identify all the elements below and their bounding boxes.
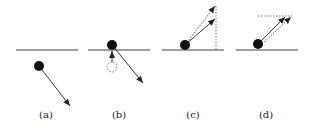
dotted-velocity-arrow	[262, 17, 291, 44]
velocity-arrow	[258, 17, 285, 44]
previous-position-circle	[107, 62, 117, 72]
velocity-arrow	[185, 19, 215, 45]
panel-a	[16, 50, 78, 106]
dotted-velocity-arrow	[185, 6, 215, 45]
panel-label-b: (b)	[112, 109, 126, 120]
collision-diagram	[0, 0, 312, 127]
ball	[34, 61, 44, 71]
velocity-arrow	[39, 66, 70, 106]
velocity-arrow	[112, 45, 143, 83]
ball	[180, 40, 190, 50]
ball	[253, 39, 263, 49]
panel-d	[236, 16, 298, 50]
ball	[107, 40, 117, 50]
panel-label-d: (d)	[259, 109, 273, 120]
panel-label-c: (c)	[186, 109, 199, 120]
panel-c	[162, 6, 224, 50]
panel-b	[88, 40, 150, 83]
panel-label-a: (a)	[39, 109, 53, 120]
